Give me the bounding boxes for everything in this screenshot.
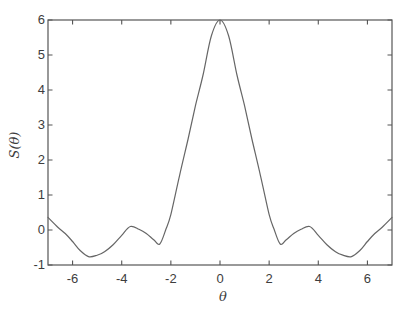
line-plot-figure: S(θ) θ -6-4-20246-10123456 [0,0,408,313]
x-tick-label: -2 [156,272,186,286]
y-tick-label: 2 [0,153,45,167]
plot-canvas [0,0,408,313]
y-tick-label: 0 [0,223,45,237]
axis-tick-marks [48,20,392,265]
y-tick-label: 3 [0,118,45,132]
x-tick-label: 2 [254,272,284,286]
y-tick-label: -1 [0,258,45,272]
curve-path [48,20,392,257]
x-tick-label: -6 [58,272,88,286]
y-tick-label: 1 [0,188,45,202]
x-tick-label: 6 [352,272,382,286]
y-tick-label: 5 [0,48,45,62]
x-tick-label: 4 [303,272,333,286]
y-tick-label: 4 [0,83,45,97]
x-axis-label: θ [209,290,237,304]
x-tick-label: 0 [205,272,235,286]
y-tick-label: 6 [0,13,45,27]
plot-border [48,20,392,265]
x-tick-label: -4 [107,272,137,286]
